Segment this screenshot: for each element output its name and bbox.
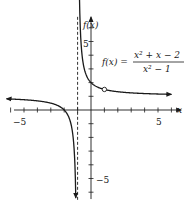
x-axis-label: x [177,105,182,115]
formula-numerator: x² + x − 2 [134,50,180,60]
y-axis-label: f(x) [82,20,99,30]
right-branch-curve [79,0,171,94]
formula-denominator: x² − 1 [143,64,171,74]
left-branch-curve [7,99,76,198]
hole-circle [102,87,106,91]
axes [14,17,181,199]
x-tick-label-neg5: −5 [13,117,27,127]
y-tick-label-5: 5 [83,39,89,49]
function-formula: f(x) = x² + x − 2 x² − 1 [101,50,184,74]
formula-lhs: f(x) = [101,57,128,67]
x-tick-label-5: 5 [156,117,162,127]
rational-function-graph: f(x) x −5 5 5 −5 f(x) = x² + x − 2 x² − … [0,0,191,201]
y-tick-label-neg5: −5 [96,175,110,185]
hole-point [102,87,106,91]
